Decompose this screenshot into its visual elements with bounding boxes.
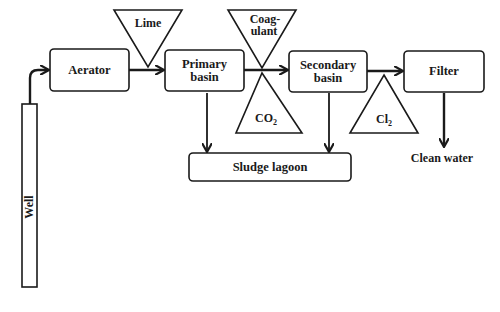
primary-basin-node: Primary basin bbox=[165, 50, 244, 91]
filter-node: Filter bbox=[404, 51, 484, 92]
primary-basin-label-1: Primary bbox=[182, 57, 228, 71]
well-label: Well bbox=[22, 195, 36, 219]
aerator-node: Aerator bbox=[50, 49, 129, 91]
secondary-basin-label-1: Secondary bbox=[300, 58, 357, 72]
sludge-lagoon-node: Sludge lagoon bbox=[189, 153, 351, 181]
clean-water-label: Clean water bbox=[411, 151, 474, 165]
arrow-well-to-aerator bbox=[30, 70, 48, 104]
aerator-label: Aerator bbox=[68, 63, 111, 77]
water-treatment-diagram: Well Aerator Lime Primary basin Coag- ul… bbox=[0, 0, 500, 312]
secondary-basin-node: Secondary basin bbox=[289, 51, 367, 92]
primary-basin-label-2: basin bbox=[190, 70, 219, 84]
coagulant-label-2: ulant bbox=[251, 24, 278, 38]
secondary-basin-label-2: basin bbox=[314, 71, 343, 85]
filter-label: Filter bbox=[429, 64, 459, 78]
sludge-lagoon-label: Sludge lagoon bbox=[233, 160, 308, 174]
lime-label: Lime bbox=[135, 16, 162, 30]
well-node: Well bbox=[22, 104, 37, 287]
